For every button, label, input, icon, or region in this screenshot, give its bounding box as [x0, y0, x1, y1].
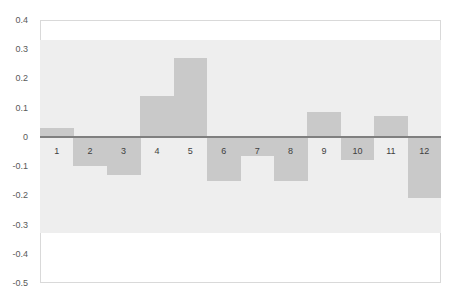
x-tick-label: 3: [107, 146, 140, 156]
x-tick-label: 5: [174, 146, 207, 156]
x-tick-label: 6: [207, 146, 240, 156]
y-tick-label: 0.3: [0, 44, 28, 54]
x-tick-label: 9: [307, 146, 340, 156]
y-tick-label: -0.1: [0, 161, 28, 171]
x-tick-label: 2: [73, 146, 106, 156]
y-tick-label: 0.1: [0, 103, 28, 113]
x-tick-label: 8: [274, 146, 307, 156]
y-tick-label: 0.4: [0, 15, 28, 25]
y-tick-label: -0.3: [0, 220, 28, 230]
x-tick-label: 11: [374, 146, 407, 156]
x-tick-label: 12: [408, 146, 441, 156]
zero-line: [40, 136, 441, 138]
bar-6: [207, 137, 241, 181]
y-tick-label: -0.5: [0, 278, 28, 288]
x-tick-label: 7: [241, 146, 274, 156]
bar-5: [174, 58, 208, 137]
y-tick-label: -0.2: [0, 190, 28, 200]
x-tick-label: 10: [341, 146, 374, 156]
y-tick-label: 0: [0, 132, 28, 142]
bar-11: [374, 116, 408, 136]
bar-9: [307, 112, 341, 137]
y-tick-label: -0.4: [0, 249, 28, 259]
bar-8: [274, 137, 308, 181]
bar-4: [140, 96, 174, 137]
y-tick-label: 0.2: [0, 73, 28, 83]
x-tick-label: 4: [140, 146, 173, 156]
bar-chart: 0.40.30.20.10-0.1-0.2-0.3-0.4-0.5 123456…: [0, 0, 454, 303]
x-tick-label: 1: [40, 146, 73, 156]
